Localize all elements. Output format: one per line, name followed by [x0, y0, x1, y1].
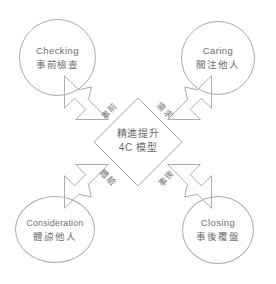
- node-caring: Caring 關注他人: [181, 21, 255, 95]
- node-checking-en: Checking: [36, 45, 79, 57]
- node-consideration-en: Consideration: [27, 217, 84, 229]
- diagram-canvas: 精進提升 4C 模型 事前 需求 體驗 事後 Checking 事前檢查 Car…: [0, 0, 276, 284]
- node-closing-en: Closing: [201, 217, 235, 229]
- node-checking-zh: 事前檢查: [36, 58, 79, 71]
- node-caring-en: Caring: [203, 45, 233, 57]
- node-closing: Closing 事後覆盤: [182, 196, 254, 264]
- node-consideration: Consideration 體諒他人: [15, 196, 95, 263]
- node-caring-zh: 關注他人: [196, 58, 239, 71]
- node-consideration-zh: 體諒他人: [33, 230, 76, 243]
- node-closing-zh: 事後覆盤: [196, 230, 239, 243]
- node-checking: Checking 事前檢查: [19, 19, 96, 96]
